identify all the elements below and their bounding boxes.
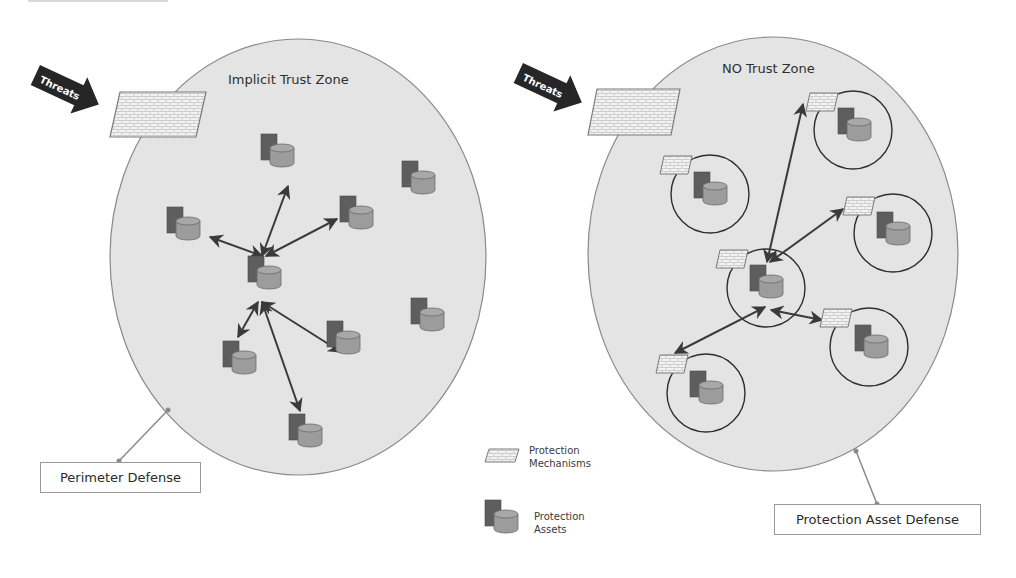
firewall-icon xyxy=(656,355,688,373)
legend: Protection Mechanisms Protection Assets xyxy=(485,445,591,535)
threats-arrow-left: Threats xyxy=(27,57,107,123)
firewall-icon xyxy=(806,93,838,111)
perimeter-firewall-icon xyxy=(110,92,206,137)
legend-assets-line2: Assets xyxy=(534,524,567,535)
firewall-icon xyxy=(820,309,852,327)
threats-arrow-right: Threats xyxy=(510,55,590,121)
legend-asset-icon xyxy=(485,500,518,533)
perimeter-defense-label: Perimeter Defense xyxy=(40,462,201,493)
left-zone-title: Implicit Trust Zone xyxy=(228,72,349,87)
perimeter-firewall-icon xyxy=(588,89,680,135)
legend-assets-line1: Protection xyxy=(534,511,585,522)
firewall-icon xyxy=(843,197,875,215)
legend-firewall-icon xyxy=(485,449,519,462)
protection-asset-defense-label: Protection Asset Defense xyxy=(774,504,981,535)
legend-mechanisms-line2: Mechanisms xyxy=(529,458,591,469)
firewall-icon xyxy=(716,250,748,268)
right-zone-title: NO Trust Zone xyxy=(722,61,815,76)
no-trust-diagram: NO Trust Zone Threats xyxy=(510,37,958,507)
implicit-trust-diagram: Implicit Trust Zone Threats xyxy=(27,39,486,475)
legend-mechanisms-line1: Protection xyxy=(529,445,580,456)
firewall-icon xyxy=(660,156,692,174)
